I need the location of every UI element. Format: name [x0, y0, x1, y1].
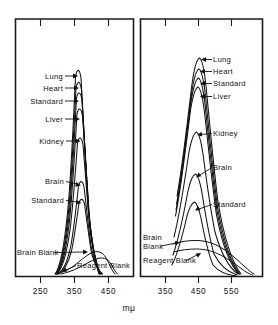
spectra-figure: 250 350 450 Lung Heart [0, 0, 278, 325]
left-label-lung-group: Lung [45, 72, 78, 81]
right-label-reagent-blank-group: Reagent Blank [143, 253, 201, 265]
right-panel: 350 450 550 Lung Heart [141, 19, 263, 296]
right-panel-tick-label-450: 450 [191, 287, 206, 296]
left-label-heart: Heart [43, 84, 63, 93]
right-label-standard-upper-group: Standard [200, 79, 246, 88]
left-panel-tick-label-450: 450 [101, 287, 116, 296]
right-label-lung: Lung [213, 55, 231, 64]
left-label-reagent-blank: Reagent Blank [77, 261, 130, 270]
right-label-reagent-blank: Reagent Blank [143, 256, 196, 265]
spectra-chart-svg: 250 350 450 Lung Heart [0, 0, 278, 325]
left-label-brain-blank: Brain Blank [17, 248, 59, 257]
right-label-liver: Liver [213, 92, 231, 101]
right-label-kidney-group: Kidney [197, 129, 238, 138]
right-label-heart: Heart [213, 67, 233, 76]
right-panel-tick-label-350: 350 [158, 287, 173, 296]
left-label-liver: Liver [45, 115, 63, 124]
axis-unit-label: mμ [123, 303, 136, 313]
left-label-brain: Brain [45, 177, 64, 186]
right-label-standard-upper: Standard [213, 79, 246, 88]
right-label-standard-lower-group: Standard [195, 200, 246, 211]
left-label-brain-blank-group: Brain Blank [17, 248, 88, 257]
left-label-standard-upper-group: Standard [30, 97, 79, 106]
right-label-brain-blank-line2: Blank [143, 242, 163, 251]
right-label-lung-group: Lung [201, 55, 231, 64]
right-label-kidney: Kidney [213, 129, 238, 138]
left-label-brain-group: Brain [45, 177, 81, 187]
left-label-standard-lower-group: Standard [31, 196, 81, 205]
left-label-heart-group: Heart [43, 84, 79, 93]
right-label-brain-blank-line1: Brain [143, 233, 162, 242]
left-label-kidney: Kidney [39, 137, 64, 146]
left-panel-tick-label-250: 250 [33, 287, 48, 296]
left-label-standard-upper: Standard [30, 97, 63, 106]
left-label-standard-lower: Standard [31, 196, 64, 205]
right-label-brain: Brain [213, 163, 232, 172]
left-panel-tick-label-350: 350 [67, 287, 82, 296]
right-panel-tick-label-550: 550 [224, 287, 239, 296]
right-label-standard-lower: Standard [213, 200, 246, 209]
left-label-lung: Lung [45, 72, 63, 81]
left-panel: 250 350 450 Lung Heart [16, 19, 134, 296]
